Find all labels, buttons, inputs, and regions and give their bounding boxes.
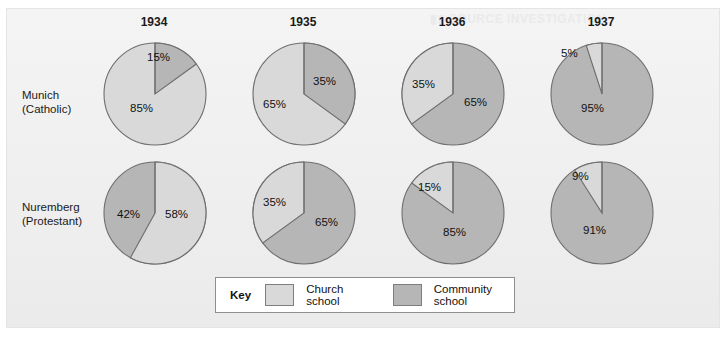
pct-munich-1936-church: 35% — [412, 78, 435, 90]
year-heading-1936: 1936 — [392, 15, 512, 29]
legend-key-box: Key Church school Community school — [215, 277, 515, 313]
pie-nuremberg-1935 — [251, 160, 357, 266]
pct-munich-1934-church: 85% — [130, 102, 153, 114]
year-heading-1935: 1935 — [243, 15, 363, 29]
pct-nuremberg-1937-church: 9% — [572, 170, 589, 182]
pie-munich-1935 — [251, 41, 357, 147]
pie-nuremberg-1936 — [400, 160, 506, 266]
legend-title: Key — [230, 289, 251, 301]
pct-nuremberg-1937-community: 91% — [583, 224, 606, 236]
pct-nuremberg-1936-church: 15% — [418, 181, 441, 193]
pct-munich-1934-community: 15% — [147, 51, 170, 63]
pie-nuremberg-1937 — [549, 160, 655, 266]
year-heading-1934: 1934 — [94, 15, 214, 29]
legend-swatch-community-school — [393, 284, 422, 306]
pct-munich-1935-community: 35% — [313, 75, 336, 87]
pie-nuremberg-1937-svg — [549, 160, 655, 266]
pct-nuremberg-1935-community: 65% — [315, 216, 338, 228]
pie-chart-figure: ▮▮ SOURCE INVESTIGATION 1934 1935 1936 1… — [0, 0, 728, 339]
pct-munich-1937-church: 5% — [561, 47, 578, 59]
pct-nuremberg-1934-community: 42% — [117, 208, 140, 220]
legend-swatch-church-school — [265, 284, 294, 306]
pie-nuremberg-1935-svg — [251, 160, 357, 266]
pct-nuremberg-1934-church: 58% — [165, 208, 188, 220]
pie-munich-1935-svg — [251, 41, 357, 147]
pct-nuremberg-1936-community: 85% — [443, 226, 466, 238]
pie-munich-1936 — [400, 41, 506, 147]
pct-munich-1935-church: 65% — [263, 98, 286, 110]
legend-label-church-school: Church school — [306, 283, 368, 307]
pct-munich-1936-community: 65% — [464, 96, 487, 108]
pct-munich-1937-community: 95% — [581, 102, 604, 114]
pie-nuremberg-1936-svg — [400, 160, 506, 266]
year-heading-1937: 1937 — [541, 15, 661, 29]
pie-munich-1936-svg — [400, 41, 506, 147]
legend-label-community-school: Community school — [434, 283, 514, 307]
pct-nuremberg-1935-church: 35% — [263, 196, 286, 208]
